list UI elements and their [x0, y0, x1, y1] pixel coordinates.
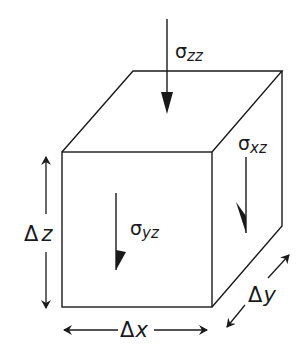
sigma-zz-label: σzz: [175, 40, 204, 65]
stress-cube-diagram: σzz σxz σyz Δz Δx Δy: [0, 0, 303, 359]
half-arrowhead-icon: [116, 250, 126, 270]
arrowhead-down-icon: [161, 92, 173, 114]
delta-x-label: Δx: [120, 318, 148, 342]
delta-y-label: Δy: [248, 283, 276, 307]
delta-z-label: Δz: [24, 222, 53, 246]
sigma-zz-arrow: [161, 19, 173, 114]
sigma-yz-arrow: [116, 193, 126, 270]
half-arrowhead-icon: [236, 202, 246, 233]
cube-right-face: [212, 71, 282, 307]
sigma-yz-label: σyz: [130, 217, 160, 242]
cube: [62, 71, 282, 307]
sigma-xz-arrow: [236, 157, 246, 233]
sigma-xz-label: σxz: [238, 132, 268, 157]
